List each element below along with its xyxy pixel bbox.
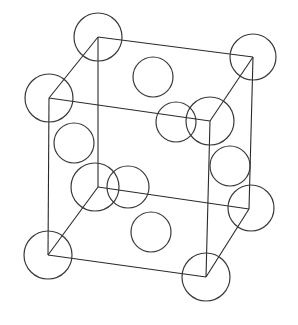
face-atom-top-face [133,57,173,97]
face-atom-bottom-face [131,212,171,252]
fcc-unit-cell-diagram [0,0,298,325]
face-atom-front-face [156,102,196,142]
face-atom-left-face [54,123,94,163]
corner-atom-back-bottom-right [228,185,274,231]
atoms [24,13,276,301]
cube-edge-back-bottom-left-to-back-bottom-right [98,187,249,209]
unit-cell-svg [0,0,298,325]
cube-edges [48,37,253,277]
corner-atom-back-bottom-left [71,163,119,211]
face-atom-back-face [107,166,149,208]
cube-edge-back-top-left-to-front-top-left [49,37,98,98]
face-atom-right-face [210,146,250,186]
